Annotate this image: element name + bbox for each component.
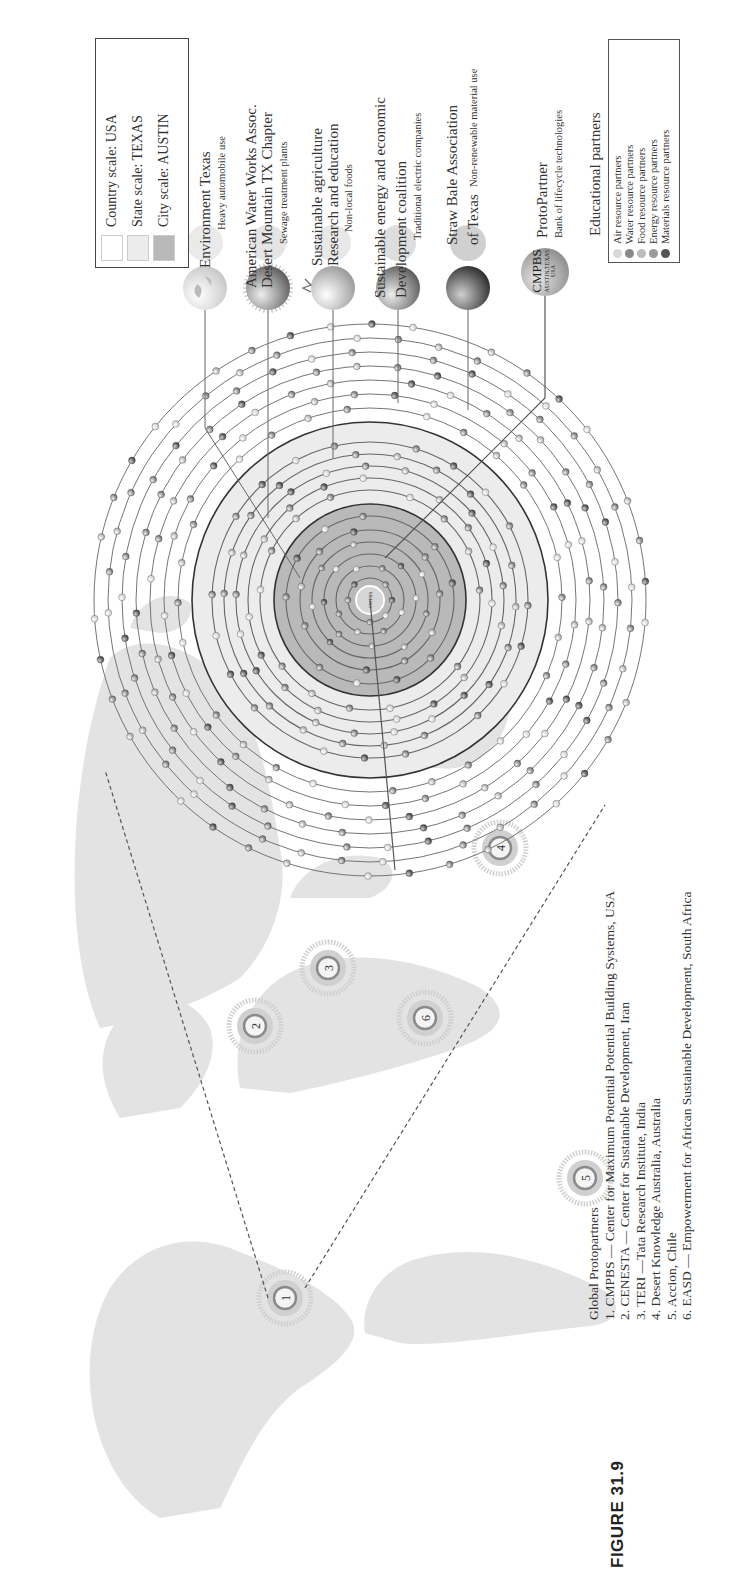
sphere-environment-texas-icon [183, 266, 227, 310]
scale-label-state: State scale: TEXAS [130, 115, 146, 227]
edu-legend-row: Materials resource partners [659, 40, 671, 262]
scale-label-country: Country scale: USA [104, 114, 120, 227]
partner-name: Desert Mountain TX Chapter [260, 104, 276, 288]
svg-text:1: 1 [279, 1295, 293, 1301]
edu-legend-label: Air resource partners [612, 155, 623, 244]
edu-legend-row: Water resource partners [623, 40, 635, 262]
scale-legend-row: City scale: AUSTIN [151, 39, 177, 267]
svg-text:6: 6 [419, 1015, 433, 1021]
global-protopartners-list: Global Protopartners 1. CMPBS — Center f… [586, 891, 695, 1320]
partner-issue: Sewage treatment plants [278, 104, 289, 288]
partner-name: Environment Texas [198, 136, 214, 268]
partner-label-protopartner: ProtoPartner Bank of lifecycle technolog… [535, 110, 564, 238]
air-partner-dot-icon [613, 249, 622, 258]
svg-text:3: 3 [322, 965, 336, 971]
materials-partner-dot-icon [661, 249, 670, 258]
svg-text:2: 2 [249, 1023, 263, 1029]
edu-legend-label: Energy resource partners [648, 139, 659, 244]
partner-label-sustainable-energy: Sustainable energy and economic Developm… [373, 97, 423, 298]
scale-legend-row: Country scale: USA [99, 39, 125, 267]
partner-issue: Heavy automobile use [216, 136, 227, 268]
edu-legend-label: Water resource partners [624, 145, 635, 244]
partner-name: Research and education [326, 124, 342, 266]
protopartner-item: 6. EASD — Empowerment for African Sustai… [679, 891, 695, 1320]
partner-label-sustainable-agriculture: Sustainable agriculture Research and edu… [310, 124, 354, 266]
partner-name: Straw Bale Association [445, 69, 461, 245]
scale-label-city: City scale: AUSTIN [156, 113, 172, 227]
swatch-country [101, 235, 123, 261]
scale-legend: Country scale: USA State scale: TEXAS Ci… [95, 38, 189, 268]
partner-issue: Bank of lifecycle technologies [553, 110, 564, 238]
edu-legend-row: Energy resource partners [647, 40, 659, 262]
cmpbs-badge-title: CMPBS [530, 246, 544, 296]
protopartner-item: 5. Accion, Chile [664, 891, 680, 1320]
scale-legend-row: State scale: TEXAS [125, 39, 151, 267]
swatch-state [127, 235, 149, 261]
swatch-city [153, 235, 175, 261]
educational-partners-title: Educational partners [588, 112, 604, 236]
cmpbs-badge-country: USA [550, 246, 556, 296]
edu-legend-row: Air resource partners [611, 40, 623, 262]
educational-legend: Air resource partners Water resource par… [608, 39, 680, 263]
partner-name: Sustainable agriculture [310, 124, 326, 266]
food-partner-dot-icon [637, 249, 646, 258]
cmpbs-badge-location: AUSTIN,TEXAS [544, 246, 550, 296]
partner-issue: Non-local foods [343, 124, 354, 266]
sphere-straw-bale-icon [446, 266, 490, 310]
rotated-figure: 123456CMPBS Global Protopartners 1. CMPB… [0, 0, 734, 1588]
protopartners-title: Global Protopartners [586, 891, 602, 1320]
energy-partner-dot-icon [649, 249, 658, 258]
protopartner-item: 4. Desert Knowledge Australia, Australia [648, 891, 664, 1320]
protopartner-item: 1. CMPBS — Center for Maximum Potential … [602, 891, 618, 1320]
partner-name: Sustainable energy and economic [373, 97, 389, 298]
partner-label-environment-texas: Environment Texas Heavy automobile use [198, 136, 227, 268]
edu-legend-row: Food resource partners [635, 40, 647, 262]
partner-label-straw-bale: Straw Bale Association of Texas Non-rene… [445, 69, 479, 245]
partner-name: Development coalition [394, 97, 410, 298]
figure-label: FIGURE 31.9 [608, 1460, 628, 1568]
edu-legend-label: Materials resource partners [660, 130, 671, 244]
partner-issue: Traditional electric companies [412, 97, 423, 298]
protopartner-item: 3. TERI —Tata Research Institute, India [633, 891, 649, 1320]
sphere-agriculture-icon [303, 266, 355, 310]
edu-legend-label: Food resource partners [636, 148, 647, 244]
partner-name: American Water Works Assoc. [244, 104, 260, 288]
partner-label-awwa: American Water Works Assoc. Desert Mount… [244, 104, 289, 288]
water-partner-dot-icon [625, 249, 634, 258]
protopartner-item: 2. CENESTA — Center for Sustainable Deve… [617, 891, 633, 1320]
cmpbs-badge: CMPBS AUSTIN,TEXAS USA [530, 246, 556, 296]
partner-name: ProtoPartner [535, 110, 551, 238]
